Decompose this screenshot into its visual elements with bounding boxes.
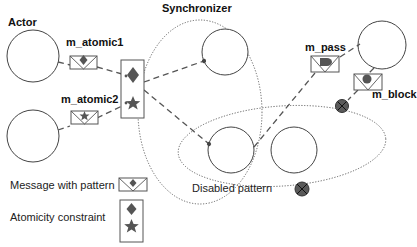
m-pass-label: m_pass: [305, 41, 346, 53]
legend-message-label: Message with pattern: [10, 179, 115, 191]
legend-atomicity-icon: [120, 200, 143, 242]
m-atomic1-label: m_atomic1: [66, 36, 123, 48]
sync-lower-circle[interactable]: [208, 127, 254, 173]
edge-actor1-to-atomic1: [58, 62, 70, 65]
actor-circle-top[interactable]: [7, 30, 59, 82]
edge-mblock-to-disabled: [348, 90, 358, 100]
edge-topright-to-mblock: [368, 68, 374, 74]
disabled-pattern-marker[interactable]: [336, 100, 349, 113]
edge-atomic1-to-box: [97, 67, 122, 74]
diagram-canvas: [0, 0, 417, 247]
message-m-atomic1[interactable]: [70, 55, 97, 69]
synchronizer-label: Synchronizer: [162, 2, 232, 14]
message-m-pass[interactable]: [311, 56, 339, 72]
circle-pattern-icon: [363, 75, 372, 84]
right-middle-circle[interactable]: [271, 127, 317, 173]
edge-actor2-to-atomic2: [58, 126, 70, 130]
edge-box-to-sync-lower: [144, 90, 209, 144]
m-block-label: m_block: [372, 88, 417, 100]
legend-message-icon: [119, 178, 147, 191]
half-disc-pattern-icon: [320, 58, 332, 66]
legend-disabled-label: Disabled pattern: [192, 182, 272, 194]
actor-label: Actor: [8, 16, 37, 28]
top-right-circle[interactable]: [358, 21, 406, 69]
edge-atomic2-to-box: [97, 106, 122, 118]
sync-top-circle[interactable]: [202, 29, 248, 75]
legend-atomicity-label: Atomicity constraint: [10, 211, 105, 223]
message-m-atomic2[interactable]: [71, 111, 98, 124]
actor-circle-bottom[interactable]: [7, 110, 59, 162]
edge-box-to-sync-top: [144, 61, 204, 82]
atomicity-constraint-box[interactable]: [121, 60, 144, 118]
legend-disabled-icon: [295, 182, 309, 196]
m-atomic2-label: m_atomic2: [61, 93, 118, 105]
